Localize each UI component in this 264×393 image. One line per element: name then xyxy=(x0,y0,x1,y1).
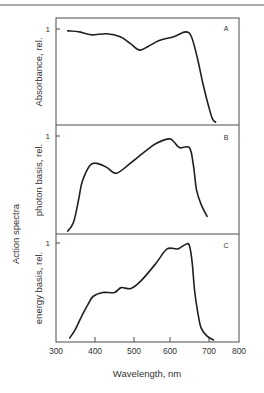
x-tick-label-700: 700 xyxy=(202,346,216,356)
panel-a-ylabel: Absorbance, rel. xyxy=(33,37,44,106)
panel-a-absorbance-curve xyxy=(68,31,216,122)
panel-c-energy-basis-curve xyxy=(70,244,214,340)
x-axis-label: Wavelength, nm xyxy=(113,368,181,379)
y-ticks xyxy=(56,29,60,243)
panel-b-ylabel: photon basis, rel. xyxy=(33,144,44,216)
panel-c-ylabel: energy basis, rel. xyxy=(33,252,44,324)
panel-c-ytick-1: 1 xyxy=(46,239,51,248)
panel-c-letter: C xyxy=(223,242,228,249)
x-tick-label-300: 300 xyxy=(49,346,63,356)
x-tick-label-800: 800 xyxy=(232,346,246,356)
shared-ylabel: Action spectra xyxy=(10,203,21,264)
panel-a-letter: A xyxy=(224,25,229,32)
x-tick-label-500: 500 xyxy=(127,346,141,356)
x-axis-ticks: 300400500600700800 xyxy=(49,337,246,356)
panel-b-photon-basis-curve xyxy=(68,139,207,231)
panel-b-letter: B xyxy=(224,134,229,141)
panel-b-ytick-1: 1 xyxy=(46,132,51,141)
x-tick-label-400: 400 xyxy=(88,346,102,356)
panel-a-ytick-1: 1 xyxy=(46,25,51,34)
x-tick-label-600: 600 xyxy=(163,346,177,356)
action-spectra-figure: 1 1 1 A B C Absorbance, rel. photon basi… xyxy=(0,0,264,393)
